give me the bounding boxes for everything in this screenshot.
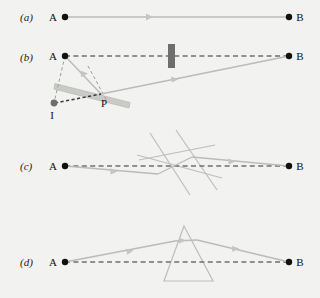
image-point-marker <box>51 100 58 107</box>
point-b-label: B <box>296 50 303 62</box>
panel-a: (a) A B <box>20 11 304 24</box>
exit-ray-d <box>197 240 289 262</box>
plate-face-right <box>176 130 217 190</box>
point-a-marker <box>62 163 68 169</box>
point-b-marker <box>286 163 292 169</box>
arrowhead-c-exit <box>228 159 236 165</box>
panel-d-label: (d) <box>20 256 33 269</box>
panel-c-label: (c) <box>20 160 33 173</box>
point-b-marker <box>286 259 292 265</box>
panel-d: (d) A B <box>20 226 304 281</box>
point-b-label: B <box>296 11 303 23</box>
point-b-label: B <box>296 256 303 268</box>
arrowhead-d-inside <box>179 238 186 244</box>
panel-a-label: (a) <box>20 11 33 24</box>
panel-b: (b) A B I P <box>20 44 304 121</box>
point-a-label: A <box>49 11 57 23</box>
arrowhead-a <box>146 14 153 21</box>
barrier <box>168 44 175 68</box>
construction-a-to-i <box>54 56 65 103</box>
reflection-point-label: P <box>101 97 107 109</box>
point-a-marker <box>62 14 68 20</box>
arrowhead-b-reflected <box>171 77 179 83</box>
point-a-label: A <box>49 256 57 268</box>
arrowhead-d-exit <box>232 246 240 252</box>
mirror-surface <box>54 84 130 109</box>
point-a-marker <box>62 53 68 59</box>
arrowhead-c-incident <box>110 168 118 174</box>
reflected-ray <box>101 56 289 94</box>
panel-b-label: (b) <box>20 51 33 64</box>
exit-ray-c <box>192 157 289 166</box>
prism <box>164 226 213 281</box>
panel-c: (c) A B <box>20 130 304 195</box>
point-b-marker <box>286 53 292 59</box>
point-a-marker <box>62 259 68 265</box>
point-a-label: A <box>49 50 57 62</box>
incident-ray-d <box>65 241 175 262</box>
optics-figure: (a) A B (b) A B I <box>0 0 320 298</box>
image-point-label: I <box>50 109 54 121</box>
point-b-marker <box>286 14 292 20</box>
point-b-label: B <box>296 160 303 172</box>
point-a-label: A <box>49 160 57 172</box>
